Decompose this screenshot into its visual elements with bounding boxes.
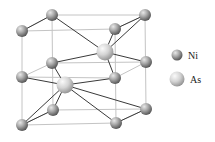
ni-atom <box>16 119 28 131</box>
ni-atom <box>110 117 122 129</box>
legend-label-ni: Ni <box>188 51 198 61</box>
frame-edge <box>53 109 146 110</box>
bond-lines <box>22 15 146 125</box>
bond-line <box>22 85 65 125</box>
frame-edge <box>52 62 146 63</box>
bond-line <box>65 85 116 123</box>
frame-edge <box>22 29 115 31</box>
ni-atom <box>109 23 121 35</box>
as-atom <box>57 77 74 94</box>
ni-atom <box>16 25 28 37</box>
as-atom <box>97 44 114 61</box>
bond-line <box>52 15 105 52</box>
legend <box>170 50 185 87</box>
bond-line <box>65 85 146 109</box>
frame-edge <box>22 123 116 125</box>
ni-atom <box>139 9 151 21</box>
ni-atom <box>140 56 152 68</box>
ni-atom <box>46 57 58 69</box>
ni-atom <box>140 103 152 115</box>
ni-atom <box>109 72 121 84</box>
ni-atom <box>46 9 58 21</box>
legend-label-as: As <box>190 75 201 85</box>
nias-crystal-diagram <box>0 0 215 142</box>
legend-ni-ball-icon <box>172 50 183 61</box>
legend-as-ball-icon <box>170 72 185 87</box>
ni-atom <box>47 104 59 116</box>
ni-atom <box>16 71 28 83</box>
